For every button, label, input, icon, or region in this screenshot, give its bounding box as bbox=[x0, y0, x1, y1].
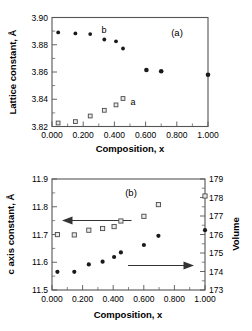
panel-a-label: (a) bbox=[171, 27, 183, 38]
panel-b-ytick-right-1: 174 bbox=[209, 267, 223, 277]
panel-a-series-label-a: a bbox=[130, 97, 135, 107]
panel-b: 11.5 11.6 11.7 11.8 11.9 173 bbox=[0, 166, 252, 331]
panel-b-x-ticks bbox=[52, 285, 205, 290]
panel-b-ytick-left-4: 11.9 bbox=[32, 174, 48, 184]
panel-a-ylabel: Lattice constant, Å bbox=[7, 29, 18, 114]
panel-a-xlabel: Composition, x bbox=[96, 143, 165, 154]
panel-a-xtick-3: 0.600 bbox=[135, 130, 157, 140]
panel-b-xtick-5: 1.000 bbox=[194, 294, 216, 304]
panel-b-ytick-left-2: 11.7 bbox=[32, 230, 48, 240]
panel-b-xtick-1: 0.200 bbox=[72, 294, 94, 304]
panel-a-series-a-points bbox=[56, 97, 125, 125]
panel-b-xlabel: Composition, x bbox=[94, 309, 163, 320]
panel-b-ytick-right-5: 178 bbox=[209, 193, 223, 203]
panel-a-y-ticks bbox=[52, 18, 57, 127]
panel-a-xtick-0: 0.000 bbox=[41, 130, 63, 140]
panel-a: 3.82 3.84 3.86 3.88 3.90 0.000 0.20 bbox=[0, 0, 252, 166]
panel-b-ytick-right-6: 179 bbox=[209, 174, 223, 184]
panel-a-xtick-4: 0.800 bbox=[166, 130, 188, 140]
panel-b-right-arrow-annotation bbox=[128, 262, 194, 270]
panel-a-ytick-2: 3.86 bbox=[31, 67, 48, 77]
panel-b-ytick-right-2: 175 bbox=[209, 248, 223, 258]
panel-b-ylabel: c axis constant, Å bbox=[5, 193, 16, 274]
panel-b-svg: 11.5 11.6 11.7 11.8 11.9 173 bbox=[0, 166, 252, 331]
panel-a-ytick-1: 3.84 bbox=[31, 94, 48, 104]
panel-a-series-label-b: b bbox=[101, 25, 106, 35]
panel-b-ylabel-right: Volume bbox=[230, 217, 241, 251]
panel-a-xtick-1: 0.200 bbox=[73, 130, 95, 140]
figure-container: 3.82 3.84 3.86 3.88 3.90 0.000 0.20 bbox=[0, 0, 252, 331]
panel-a-series-b-points bbox=[56, 31, 210, 77]
panel-b-series-caxis-points bbox=[55, 194, 207, 237]
panel-b-ytick-left-3: 11.8 bbox=[32, 202, 48, 212]
panel-b-xtick-4: 0.800 bbox=[164, 294, 186, 304]
panel-a-ytick-4: 3.90 bbox=[31, 13, 48, 23]
panel-b-xtick-0: 0.000 bbox=[41, 294, 63, 304]
panel-a-svg: 3.82 3.84 3.86 3.88 3.90 0.000 0.20 bbox=[0, 0, 252, 166]
panel-b-ytick-left-1: 11.6 bbox=[32, 257, 48, 267]
panel-a-xtick-2: 0.400 bbox=[104, 130, 126, 140]
panel-b-ytick-right-4: 177 bbox=[209, 211, 223, 221]
panel-b-ytick-right-3: 176 bbox=[209, 230, 223, 240]
panel-b-label: (b) bbox=[125, 187, 137, 198]
panel-b-xtick-2: 0.400 bbox=[103, 294, 125, 304]
panel-b-xtick-3: 0.600 bbox=[133, 294, 155, 304]
panel-a-xtick-5: 1.000 bbox=[197, 130, 219, 140]
panel-a-ytick-3: 3.88 bbox=[31, 40, 48, 50]
